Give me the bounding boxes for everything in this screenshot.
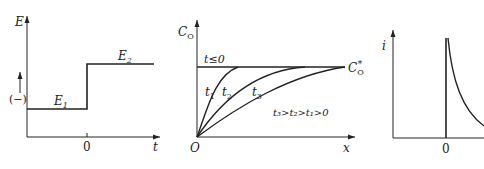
negative-sign-label: (−): [9, 94, 27, 105]
curve-t3-label: t3: [252, 86, 262, 101]
bulk-concentration-label: CO*: [348, 60, 362, 77]
t-axis-label: t: [153, 141, 158, 153]
curve-t2-label: t2: [222, 86, 232, 101]
e2-label: E2: [118, 50, 132, 65]
potential-step-plot: [20, 16, 160, 137]
e-axis-label: E: [15, 16, 24, 28]
curve-t1: [197, 67, 238, 137]
diagram-canvas: [0, 0, 484, 169]
zero-label: 0: [83, 141, 91, 153]
curve-t1-label: t1: [205, 86, 215, 101]
concentration-profile-plot: [197, 20, 355, 137]
zero-label-c: 0: [442, 143, 450, 155]
e1-label: E1: [54, 95, 68, 110]
current-transient-plot: [393, 30, 484, 138]
i-axis-label: i: [382, 40, 386, 52]
co-axis-label: CO: [178, 26, 194, 41]
initial-time-label: t≤0: [204, 54, 225, 65]
step-waveform: [27, 64, 154, 109]
x-axis-label: x: [343, 142, 350, 154]
origin-label: O: [190, 142, 200, 154]
current-decay-curve: [448, 38, 484, 126]
time-order-label: t₃>t₂>t₁>0: [273, 108, 329, 118]
curve-t3: [197, 67, 345, 137]
